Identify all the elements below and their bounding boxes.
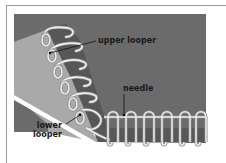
needle-point — [123, 114, 126, 117]
lower-looper-point — [79, 114, 82, 117]
needle-label: needle — [123, 84, 153, 93]
lower-looper-label-line1: lower — [33, 121, 62, 130]
lower-looper-label: lower looper — [33, 121, 62, 139]
upper-looper-label: upper looper — [98, 36, 156, 45]
upper-looper-point — [49, 52, 52, 55]
lower-looper-label-line2: looper — [33, 130, 62, 139]
